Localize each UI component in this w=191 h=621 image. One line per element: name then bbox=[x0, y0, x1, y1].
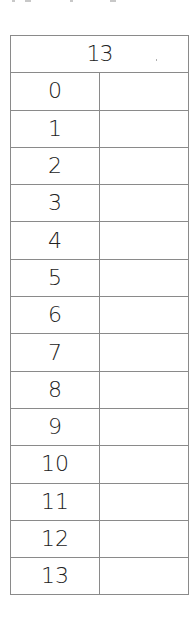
table-row: 10 bbox=[11, 446, 189, 483]
table-row: 13 bbox=[11, 558, 189, 595]
scan-artifact bbox=[12, 0, 15, 2]
table-row: 5 bbox=[11, 259, 189, 296]
table-row: 1 bbox=[11, 110, 189, 147]
answer-cell[interactable] bbox=[100, 222, 189, 259]
scan-dust bbox=[156, 59, 157, 61]
row-number: 8 bbox=[11, 371, 100, 408]
row-number: 2 bbox=[11, 147, 100, 184]
table-row: 6 bbox=[11, 297, 189, 334]
row-number: 12 bbox=[11, 520, 100, 557]
table-row: 2 bbox=[11, 147, 189, 184]
answer-cell[interactable] bbox=[100, 110, 189, 147]
scan-artifact bbox=[110, 0, 116, 2]
table-header: 13 bbox=[11, 36, 189, 73]
answer-cell[interactable] bbox=[100, 259, 189, 296]
row-number: 11 bbox=[11, 483, 100, 520]
answer-cell[interactable] bbox=[100, 334, 189, 371]
table-row: 9 bbox=[11, 408, 189, 445]
row-number: 3 bbox=[11, 185, 100, 222]
answer-cell[interactable] bbox=[100, 408, 189, 445]
table-row: 7 bbox=[11, 334, 189, 371]
row-number: 5 bbox=[11, 259, 100, 296]
table-row: 3 bbox=[11, 185, 189, 222]
answer-cell[interactable] bbox=[100, 147, 189, 184]
row-number: 10 bbox=[11, 446, 100, 483]
scan-artifact bbox=[25, 0, 31, 2]
answer-cell[interactable] bbox=[100, 520, 189, 557]
answer-cell[interactable] bbox=[100, 297, 189, 334]
row-number: 6 bbox=[11, 297, 100, 334]
table-row: 4 bbox=[11, 222, 189, 259]
row-number: 1 bbox=[11, 110, 100, 147]
answer-cell[interactable] bbox=[100, 558, 189, 595]
answer-cell[interactable] bbox=[100, 371, 189, 408]
row-number: 4 bbox=[11, 222, 100, 259]
row-number: 13 bbox=[11, 558, 100, 595]
answer-cell[interactable] bbox=[100, 185, 189, 222]
table-row: 8 bbox=[11, 371, 189, 408]
answer-cell[interactable] bbox=[100, 73, 189, 110]
number-table: 13 012345678910111213 bbox=[10, 35, 189, 595]
answer-cell[interactable] bbox=[100, 483, 189, 520]
table-row: 12 bbox=[11, 520, 189, 557]
row-number: 9 bbox=[11, 408, 100, 445]
table-row: 11 bbox=[11, 483, 189, 520]
scan-artifact bbox=[70, 0, 73, 2]
row-number: 7 bbox=[11, 334, 100, 371]
table-row: 0 bbox=[11, 73, 189, 110]
table-header-row: 13 bbox=[11, 36, 189, 73]
answer-cell[interactable] bbox=[100, 446, 189, 483]
scan-artifacts-top bbox=[0, 0, 191, 6]
row-number: 0 bbox=[11, 73, 100, 110]
